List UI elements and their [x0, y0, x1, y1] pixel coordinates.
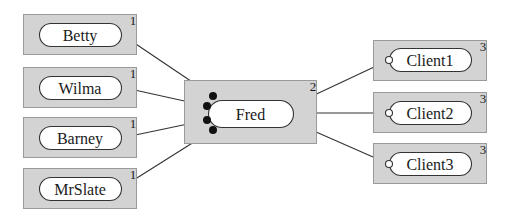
node-count: 1: [130, 66, 137, 81]
node-label: Client1: [406, 52, 453, 69]
node-label: Client2: [406, 105, 453, 122]
node-count: 1: [130, 167, 137, 182]
node-betty[interactable]: Betty1: [24, 13, 137, 55]
nodes: Betty1Wilma1Barney1MrSlate1Fred2Client13…: [24, 13, 487, 209]
node-barney[interactable]: Barney1: [24, 116, 137, 158]
required-port-icon: [209, 92, 217, 100]
provided-port-icon: [386, 110, 393, 117]
required-port-icon: [203, 116, 211, 124]
provided-port-icon: [386, 57, 393, 64]
node-fred[interactable]: Fred2: [185, 79, 317, 144]
provided-port-icon: [386, 161, 393, 168]
node-label: Client3: [406, 156, 453, 173]
node-count: 1: [130, 116, 137, 131]
node-count: 1: [130, 13, 137, 28]
required-port-icon: [203, 102, 211, 110]
node-count: 3: [480, 39, 487, 54]
required-port-icon: [209, 126, 217, 134]
node-wilma[interactable]: Wilma1: [24, 66, 137, 108]
node-label: Barney: [57, 130, 103, 148]
node-label: Fred: [236, 106, 265, 123]
node-count: 3: [480, 142, 487, 157]
node-count: 3: [480, 91, 487, 106]
node-count: 2: [310, 79, 317, 94]
node-label: Wilma: [59, 80, 102, 97]
node-mrslate[interactable]: MrSlate1: [24, 167, 137, 209]
node-label: Betty: [63, 27, 98, 45]
node-label: MrSlate: [54, 181, 106, 198]
component-diagram: Betty1Wilma1Barney1MrSlate1Fred2Client13…: [0, 0, 506, 215]
